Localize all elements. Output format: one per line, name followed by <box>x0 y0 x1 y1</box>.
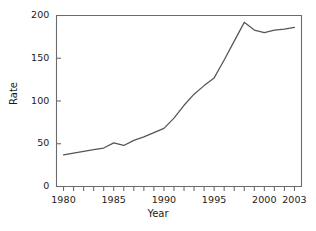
y-tick-label: 150 <box>10 52 50 63</box>
x-axis-ticks <box>64 187 295 192</box>
series-rate-line <box>64 22 295 155</box>
x-axis-title: Year <box>0 208 316 219</box>
x-tick-label: 1985 <box>94 194 134 205</box>
y-axis-title: Rate <box>8 72 19 116</box>
y-tick-label: 200 <box>10 9 50 20</box>
y-axis-ticks <box>57 16 62 187</box>
axes-frame <box>57 16 302 187</box>
x-tick-label: 1990 <box>144 194 184 205</box>
y-tick-label: 50 <box>10 137 50 148</box>
data-series-line <box>64 22 295 155</box>
y-tick-label: 0 <box>10 180 50 191</box>
x-tick-label: 1980 <box>44 194 84 205</box>
x-tick-label: 2003 <box>274 194 314 205</box>
plot-border <box>57 16 302 187</box>
chart-figure: 050100150200 198019851990199520002003 Ra… <box>0 0 316 231</box>
x-tick-label: 1995 <box>194 194 234 205</box>
